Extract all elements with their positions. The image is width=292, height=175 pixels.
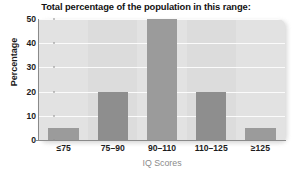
y-tick-mark xyxy=(53,91,55,92)
y-tick-mark xyxy=(53,140,55,141)
bar-chart-figure: Total percentage of the population in th… xyxy=(0,0,292,175)
bar-90–110 xyxy=(147,19,178,140)
y-tick-label: 20 xyxy=(16,87,36,97)
y-tick-label: 50 xyxy=(16,14,36,24)
y-axis-tick-labels: 01020304050 xyxy=(16,0,36,175)
bar-110–125 xyxy=(196,92,227,140)
y-tick-mark xyxy=(53,43,55,44)
y-tick-label: 0 xyxy=(16,135,36,145)
bar-75–90 xyxy=(98,92,129,140)
x-axis-line xyxy=(36,140,286,141)
plot-area xyxy=(39,19,285,140)
y-tick-label: 30 xyxy=(16,62,36,72)
y-axis-line xyxy=(38,19,39,141)
x-axis-label: IQ Scores xyxy=(39,158,285,168)
bar-≤75 xyxy=(48,128,79,140)
y-tick-mark xyxy=(53,19,55,20)
y-tick-mark xyxy=(53,67,55,68)
x-tick-label: ≤75 xyxy=(56,143,70,153)
x-tick-label: 110–125 xyxy=(195,143,228,153)
x-tick-label: 75–90 xyxy=(101,143,125,153)
x-tick-label: 90–110 xyxy=(148,143,176,153)
y-tick-mark xyxy=(53,115,55,116)
x-tick-label: ≥125 xyxy=(251,143,270,153)
x-axis-tick-labels: ≤7575–9090–110110–125≥125 xyxy=(39,143,285,157)
chart-title: Total percentage of the population in th… xyxy=(0,1,292,12)
y-tick-label: 40 xyxy=(16,38,36,48)
y-tick-label: 10 xyxy=(16,111,36,121)
bar-≥125 xyxy=(245,128,276,140)
